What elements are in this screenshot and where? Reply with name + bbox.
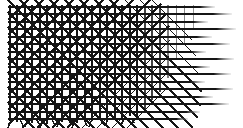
horizontal-stroke-fade-tail <box>172 36 212 38</box>
crosshatch-lattice-figure <box>0 0 243 128</box>
horizontal-stroke-fade-tail <box>182 13 232 15</box>
horizontal-stroke-fade-tail <box>185 73 231 75</box>
horizontal-stroke-fade-tail <box>184 43 230 45</box>
horizontal-stroke-fade-tail <box>183 103 229 105</box>
horizontal-stroke-fade-tail <box>176 6 215 8</box>
horizontal-stroke-fade-tail <box>187 88 233 90</box>
horizontal-stroke-fade-tail <box>158 118 188 120</box>
horizontal-stroke-fade-tail <box>186 28 236 30</box>
horizontal-stroke-fade-tail <box>170 21 208 23</box>
horizontal-stroke-fade-tail <box>172 66 210 68</box>
horizontal-stroke-fade-tail <box>168 51 206 53</box>
horizontal-stroke-fade-tail <box>188 58 234 60</box>
horizontal-stroke-fade-tail <box>174 96 213 98</box>
artwork-canvas <box>0 0 243 128</box>
horizontal-stroke-fade-tail <box>164 111 200 113</box>
horizontal-stroke-fade-tail <box>166 81 205 83</box>
